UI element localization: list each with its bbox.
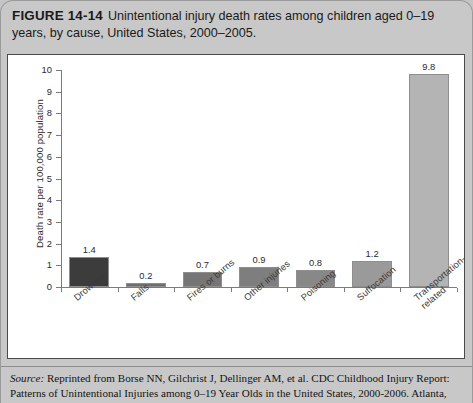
bars-layer: 1.40.20.70.90.81.29.8 [61,70,457,287]
y-tick-label: 6 [30,151,52,162]
bar-chart: Death rate per 100,000 population 012345… [8,55,464,358]
x-tick [231,288,232,292]
y-tick-label: 3 [30,216,52,227]
x-tick [61,288,62,292]
y-tick-label: 10 [30,64,52,75]
y-tick-label: 5 [30,173,52,184]
y-tick-label: 2 [30,238,52,249]
x-tick [457,288,458,292]
y-tick-label: 8 [30,107,52,118]
y-tick-label: 4 [30,194,52,205]
chart-panel: Death rate per 100,000 population 012345… [7,54,465,359]
bar-value-label: 9.8 [409,61,449,72]
bar-value-label: 0.9 [239,254,279,265]
x-tick [118,288,119,292]
y-tick-label: 0 [30,281,52,292]
source-note: Source: Reprinted from Borse NN, Gilchri… [1,366,473,403]
figure-header: FIGURE 14-14Unintentional injury death r… [1,1,473,53]
bar-value-label: 0.8 [296,257,336,268]
bar[interactable] [409,74,449,287]
figure-number: FIGURE 14-14 [12,8,103,23]
source-label: Source: [10,372,44,384]
x-tick [287,288,288,292]
x-tick [400,288,401,292]
bar-value-label: 0.2 [126,270,166,281]
x-tick [174,288,175,292]
x-tick [344,288,345,292]
figure-box: FIGURE 14-14Unintentional injury death r… [0,0,473,403]
x-axis-labels: DrowningFallsFires or burnsOther injurie… [61,293,457,359]
y-tick-label: 9 [30,86,52,97]
y-tick-label: 1 [30,259,52,270]
bar-value-label: 1.2 [352,248,392,259]
y-tick-label: 7 [30,129,52,140]
source-line-2: of Unintentional Injuries among 0–19 Yea… [10,387,447,403]
bar-value-label: 1.4 [69,244,109,255]
